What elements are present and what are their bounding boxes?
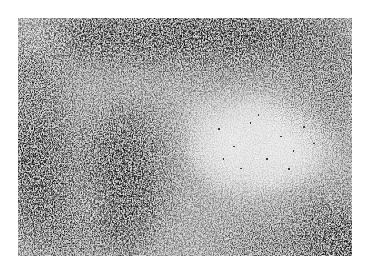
histology-micrograph (18, 18, 352, 256)
micrograph-texture (18, 18, 352, 256)
page-canvas (0, 0, 368, 266)
